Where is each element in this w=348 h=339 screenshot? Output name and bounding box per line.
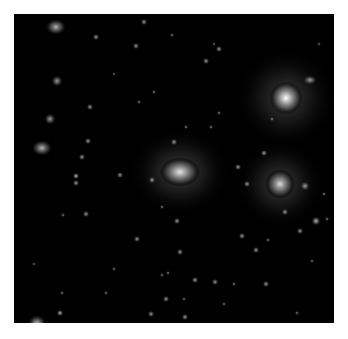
star-object bbox=[61, 213, 65, 217]
star-object bbox=[160, 205, 164, 209]
star-object bbox=[317, 42, 321, 46]
star-object bbox=[87, 104, 93, 110]
star-object bbox=[83, 211, 89, 217]
star-object bbox=[171, 139, 177, 145]
star-object bbox=[104, 291, 108, 295]
cut-off-caption bbox=[10, 0, 340, 4]
star-object bbox=[160, 273, 164, 277]
star-object bbox=[263, 281, 269, 287]
star-object bbox=[295, 311, 299, 315]
star-object bbox=[239, 233, 245, 239]
star-object bbox=[217, 111, 221, 115]
star-object bbox=[182, 297, 186, 301]
star-object bbox=[148, 311, 154, 317]
star-object bbox=[112, 72, 116, 76]
star-object bbox=[192, 277, 198, 283]
star-object bbox=[301, 182, 309, 190]
star-object bbox=[85, 138, 91, 144]
central-galaxy-object bbox=[160, 158, 199, 186]
star-object bbox=[203, 58, 209, 64]
galaxy-object bbox=[45, 114, 55, 124]
star-object bbox=[261, 150, 267, 156]
star-object bbox=[149, 177, 155, 183]
star-object bbox=[184, 125, 188, 129]
star-object bbox=[152, 90, 156, 94]
star-object bbox=[170, 33, 174, 37]
bright-star-object bbox=[270, 82, 302, 114]
star-object bbox=[253, 247, 259, 253]
star-object bbox=[216, 46, 222, 52]
star-object bbox=[182, 314, 188, 320]
galaxy-object bbox=[33, 141, 51, 155]
star-object bbox=[32, 262, 36, 266]
star-object bbox=[93, 34, 99, 40]
star-object bbox=[282, 209, 288, 215]
star-object bbox=[166, 271, 170, 275]
star-object bbox=[137, 100, 141, 104]
star-object bbox=[141, 19, 147, 25]
star-object bbox=[244, 181, 250, 187]
star-object bbox=[57, 310, 63, 316]
star-object bbox=[134, 236, 140, 242]
star-object bbox=[304, 76, 316, 84]
cluster-galaxy-object bbox=[266, 170, 294, 198]
star-object bbox=[266, 238, 270, 242]
star-object bbox=[209, 125, 213, 129]
galaxy-cluster-image bbox=[14, 14, 334, 323]
star-object bbox=[177, 249, 183, 255]
star-object bbox=[133, 43, 139, 49]
star-object bbox=[232, 282, 236, 286]
galaxy-object bbox=[52, 76, 62, 86]
star-object bbox=[163, 296, 169, 302]
star-object bbox=[79, 154, 85, 160]
star-object bbox=[297, 228, 303, 234]
star-object bbox=[112, 267, 116, 271]
star-object bbox=[212, 279, 218, 285]
star-object bbox=[73, 180, 79, 186]
galaxy-object bbox=[47, 20, 65, 34]
star-object bbox=[270, 117, 274, 121]
star-object bbox=[312, 217, 320, 225]
galaxy-object bbox=[29, 316, 45, 323]
star-object bbox=[73, 173, 79, 179]
star-object bbox=[322, 192, 326, 196]
star-object bbox=[235, 164, 241, 170]
star-object bbox=[222, 302, 226, 306]
star-object bbox=[174, 218, 180, 224]
star-object bbox=[325, 217, 329, 221]
star-object bbox=[212, 42, 216, 46]
star-object bbox=[117, 172, 123, 178]
star-object bbox=[310, 259, 314, 263]
star-object bbox=[60, 291, 64, 295]
